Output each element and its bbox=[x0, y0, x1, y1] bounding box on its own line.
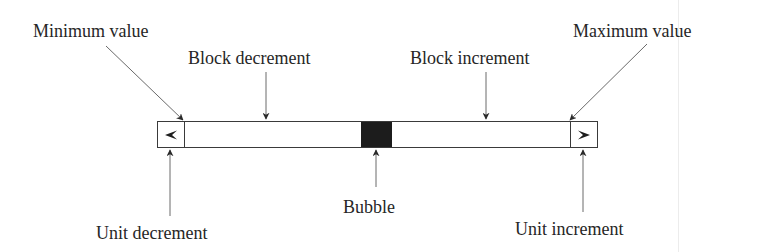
arrow-maximum-value bbox=[570, 44, 647, 120]
leader-arrows bbox=[0, 0, 765, 252]
arrow-minimum-value bbox=[106, 46, 183, 120]
